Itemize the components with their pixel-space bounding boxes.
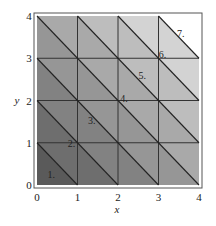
x-axis-label: x xyxy=(114,203,120,215)
line-label-3: 3. xyxy=(88,115,96,126)
y-axis-ticks: 01234 xyxy=(26,10,32,191)
x-axis-ticks: 01234 xyxy=(34,191,202,203)
line-label-7: 7. xyxy=(177,28,185,39)
line-label-5: 5. xyxy=(139,70,147,81)
y-tick-label: 0 xyxy=(26,179,32,191)
y-axis-label: y xyxy=(14,94,20,106)
x-tick-label: 3 xyxy=(156,191,162,203)
y-tick-label: 3 xyxy=(26,52,32,64)
y-tick-label: 4 xyxy=(26,10,32,22)
line-label-2: 2. xyxy=(68,138,76,149)
x-tick-label: 2 xyxy=(115,191,121,203)
y-tick-label: 2 xyxy=(26,95,32,107)
line-label-6: 6. xyxy=(159,49,167,60)
x-tick-label: 0 xyxy=(34,191,40,203)
x-tick-label: 4 xyxy=(196,191,202,203)
line-label-4: 4. xyxy=(120,93,128,104)
diagram-figure: 01234 01234 1.2.3.4.5.6.7. x y xyxy=(0,0,216,226)
line-label-1: 1. xyxy=(47,169,55,180)
y-tick-label: 1 xyxy=(26,137,32,149)
x-tick-label: 1 xyxy=(75,191,81,203)
